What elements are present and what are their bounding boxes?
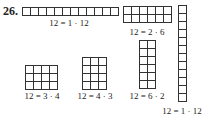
grid-cell: [156, 7, 164, 15]
rectangle-grid-2x6: [123, 6, 172, 23]
grid-cell: [34, 66, 42, 74]
grid-cell: [164, 7, 172, 15]
grid-cell: [91, 74, 99, 82]
grid-cell: [179, 54, 187, 62]
grid-cell: [47, 8, 55, 16]
rectangle-label: 12 = 2 · 6: [129, 27, 164, 37]
grid-cell: [34, 74, 42, 82]
rectangle-label: 12 = 1 · 12: [162, 106, 202, 116]
grid-cell: [132, 15, 140, 23]
grid-cell: [99, 82, 107, 90]
rectangle-label: 12 = 3 · 4: [24, 91, 59, 101]
grid-cell: [50, 66, 58, 74]
grid-cell: [99, 66, 107, 74]
grid-cell: [87, 8, 95, 16]
grid-cell: [140, 7, 148, 15]
rectangle-grid-3x4: [25, 65, 58, 90]
grid-cell: [83, 74, 91, 82]
grid-cell: [164, 15, 172, 23]
grid-cell: [91, 82, 99, 90]
grid-cell: [140, 49, 148, 57]
grid-cell: [42, 74, 50, 82]
grid-cell: [140, 41, 148, 49]
grid-cell: [156, 15, 164, 23]
grid-cell: [179, 70, 187, 78]
grid-cell: [148, 65, 156, 73]
grid-cell: [179, 30, 187, 38]
grid-cell: [99, 74, 107, 82]
grid-cell: [26, 74, 34, 82]
grid-cell: [23, 8, 31, 16]
grid-cell: [55, 8, 63, 16]
grid-cell: [148, 81, 156, 89]
grid-cell: [99, 58, 107, 66]
grid-cell: [148, 41, 156, 49]
grid-cell: [140, 65, 148, 73]
grid-cell: [179, 22, 187, 30]
grid-cell: [179, 94, 187, 102]
grid-cell: [124, 7, 132, 15]
rectangle-grid-1x12: [22, 7, 119, 16]
rectangle-label: 12 = 1 · 12: [49, 18, 89, 28]
grid-cell: [34, 82, 42, 90]
grid-cell: [140, 73, 148, 81]
rectangle-label: 12 = 6 · 2: [129, 91, 164, 101]
grid-cell: [179, 78, 187, 86]
grid-cell: [179, 46, 187, 54]
grid-cell: [179, 6, 187, 14]
grid-cell: [103, 8, 111, 16]
grid-cell: [31, 8, 39, 16]
grid-cell: [91, 58, 99, 66]
grid-cell: [140, 15, 148, 23]
rectangle-grid-4x3: [82, 57, 107, 90]
problem-number: 26.: [3, 4, 18, 19]
grid-cell: [132, 7, 140, 15]
grid-cell: [148, 73, 156, 81]
grid-cell: [26, 66, 34, 74]
grid-cell: [111, 8, 119, 16]
grid-cell: [124, 15, 132, 23]
grid-cell: [148, 49, 156, 57]
grid-cell: [42, 82, 50, 90]
grid-cell: [179, 38, 187, 46]
grid-cell: [83, 82, 91, 90]
grid-cell: [179, 62, 187, 70]
grid-cell: [179, 14, 187, 22]
grid-cell: [83, 66, 91, 74]
rectangle-grid-6x2: [139, 40, 156, 89]
grid-cell: [140, 81, 148, 89]
grid-cell: [148, 57, 156, 65]
grid-cell: [83, 58, 91, 66]
grid-cell: [140, 57, 148, 65]
grid-cell: [63, 8, 71, 16]
grid-cell: [50, 74, 58, 82]
grid-cell: [91, 66, 99, 74]
grid-cell: [148, 15, 156, 23]
grid-cell: [95, 8, 103, 16]
grid-cell: [71, 8, 79, 16]
grid-cell: [148, 7, 156, 15]
grid-cell: [26, 82, 34, 90]
grid-cell: [179, 86, 187, 94]
rectangle-grid-12x1: [178, 5, 187, 102]
grid-cell: [42, 66, 50, 74]
rectangle-label: 12 = 4 · 3: [77, 91, 112, 101]
grid-cell: [79, 8, 87, 16]
grid-cell: [50, 82, 58, 90]
grid-cell: [39, 8, 47, 16]
